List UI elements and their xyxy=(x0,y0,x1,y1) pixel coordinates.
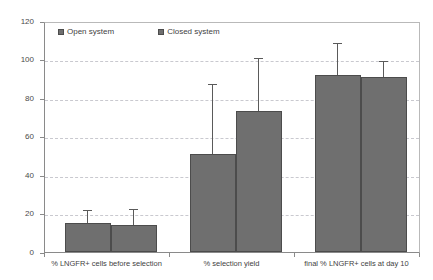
error-bar-closed-system-2 xyxy=(258,59,259,111)
legend-entry-closed-system[interactable]: Closed system xyxy=(158,27,219,36)
x-axis-tick-mark xyxy=(169,253,170,257)
error-bar-open-system-1 xyxy=(87,211,88,223)
error-bar-open-system-2 xyxy=(212,85,213,154)
bar-closed-system-1[interactable] xyxy=(111,225,157,252)
legend-swatch-icon xyxy=(158,29,164,35)
y-axis-tick-label: 0 xyxy=(0,249,34,257)
y-axis: 120 100 80 60 40 20 0 xyxy=(0,0,44,280)
bar-group-2 xyxy=(184,21,294,252)
bar-chart: 120 100 80 60 40 20 0 xyxy=(0,0,433,280)
bar-group-3 xyxy=(309,21,419,252)
x-axis-label-2: % selection yield xyxy=(169,259,294,268)
x-axis-label-1: % LNGFR+ cells before selection xyxy=(44,259,169,268)
error-bar-closed-system-1 xyxy=(133,210,134,225)
bar-open-system-3[interactable] xyxy=(315,75,361,252)
x-axis-tick-mark xyxy=(294,253,295,257)
legend-label-closed-system: Closed system xyxy=(167,27,219,36)
x-axis-label-3: final % LNGFR+ cells at day 10 xyxy=(294,259,419,268)
y-axis-tick-label: 120 xyxy=(0,18,34,26)
y-axis-tick-label: 40 xyxy=(0,172,34,180)
legend-entry-open-system[interactable]: Open system xyxy=(58,27,114,36)
bar-open-system-2[interactable] xyxy=(190,154,236,252)
error-bar-cap-open-system-1 xyxy=(83,210,92,211)
bar-group-1 xyxy=(59,21,169,252)
error-bar-cap-closed-system-3 xyxy=(379,61,388,62)
y-axis-tick-label: 20 xyxy=(0,210,34,218)
error-bar-cap-open-system-3 xyxy=(333,43,342,44)
x-axis-tick-mark xyxy=(419,253,420,257)
error-bar-cap-closed-system-1 xyxy=(129,209,138,210)
error-bar-cap-closed-system-2 xyxy=(254,58,263,59)
x-axis-tick-mark xyxy=(44,253,45,257)
error-bar-closed-system-3 xyxy=(383,62,384,77)
chart-legend: Open system Closed system xyxy=(58,27,220,36)
y-axis-tick-label: 60 xyxy=(0,133,34,141)
bar-open-system-1[interactable] xyxy=(65,223,111,252)
plot-area xyxy=(44,22,420,253)
legend-label-open-system: Open system xyxy=(67,27,114,36)
error-bar-open-system-3 xyxy=(337,44,338,75)
bar-closed-system-3[interactable] xyxy=(361,77,407,252)
bar-closed-system-2[interactable] xyxy=(236,111,282,252)
y-axis-tick-label: 100 xyxy=(0,56,34,64)
error-bar-cap-open-system-2 xyxy=(208,84,217,85)
legend-swatch-icon xyxy=(58,29,64,35)
y-axis-tick-label: 80 xyxy=(0,95,34,103)
